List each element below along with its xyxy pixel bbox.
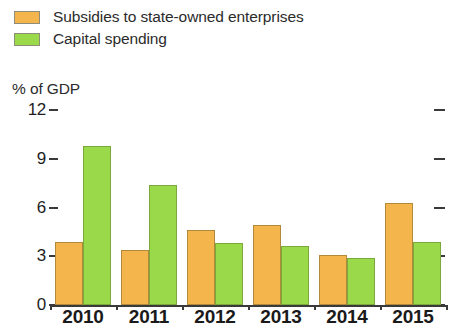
bar-capital-spending[interactable] (83, 146, 111, 305)
x-axis-label: 2014 (326, 306, 367, 328)
y-axis-unit-label: % of GDP (12, 80, 80, 98)
bars-container (50, 110, 446, 305)
bar-subsidies[interactable] (319, 255, 347, 305)
bar-subsidies[interactable] (253, 225, 281, 305)
legend-label-capital-spending: Capital spending (53, 30, 167, 48)
bar-group (319, 110, 375, 305)
bar-capital-spending[interactable] (281, 246, 309, 305)
legend-swatch-subsidies-icon (14, 11, 40, 24)
y-axis-tick-label: 6 (0, 198, 46, 218)
x-axis-label: 2010 (62, 306, 103, 328)
bar-subsidies[interactable] (55, 242, 83, 305)
x-axis-label: 2012 (194, 306, 235, 328)
bar-group (253, 110, 309, 305)
y-axis-tick-label: 12 (0, 100, 46, 120)
bar-capital-spending[interactable] (413, 242, 441, 305)
bar-group (55, 110, 111, 305)
bar-capital-spending[interactable] (215, 243, 243, 305)
x-axis-label: 2013 (260, 306, 301, 328)
x-axis-labels: 201020112012201320142015 (0, 306, 451, 334)
bar-group (187, 110, 243, 305)
legend-swatch-capital-spending-icon (14, 33, 40, 46)
bar-subsidies[interactable] (385, 203, 413, 305)
bar-subsidies[interactable] (121, 250, 149, 305)
legend-item-capital-spending: Capital spending (14, 28, 304, 50)
legend-label-subsidies: Subsidies to state-owned enterprises (53, 8, 304, 26)
legend-item-subsidies: Subsidies to state-owned enterprises (14, 6, 304, 28)
bar-group (121, 110, 177, 305)
bar-subsidies[interactable] (187, 230, 215, 305)
y-axis-tick-label: 3 (0, 246, 46, 266)
bar-capital-spending[interactable] (149, 185, 177, 305)
x-axis-label: 2015 (392, 306, 433, 328)
y-axis-tick-label: 9 (0, 149, 46, 169)
bar-chart: Subsidies to state-owned enterprises Cap… (0, 0, 451, 334)
chart-legend: Subsidies to state-owned enterprises Cap… (14, 6, 304, 50)
bar-group (385, 110, 441, 305)
plot-area: 036912 (0, 110, 451, 310)
x-axis-label: 2011 (129, 306, 169, 328)
bar-capital-spending[interactable] (347, 258, 375, 305)
